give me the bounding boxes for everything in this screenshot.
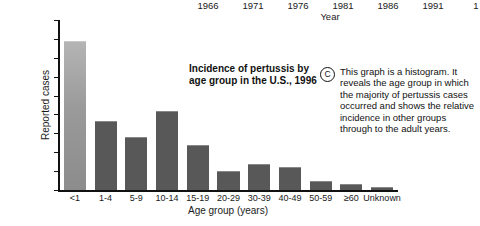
chart-title: Incidence of pertussis by age group in t… (189, 63, 317, 87)
y-axis-label: Reported cases (40, 70, 51, 140)
callout-badge-c: C (320, 67, 335, 82)
y-tick-mark (54, 77, 58, 78)
bar (187, 145, 209, 190)
y-tick-mark (54, 152, 58, 153)
year-tick-label: 1 (462, 0, 480, 11)
y-tick-mark (54, 114, 58, 115)
x-tick-label: 40-49 (278, 193, 301, 203)
x-axis-line (58, 190, 398, 192)
x-tick-label: 15-19 (186, 193, 209, 203)
y-tick-mark (54, 171, 58, 172)
x-tick-label: <1 (70, 193, 80, 203)
bar (340, 184, 362, 190)
bar (64, 41, 86, 190)
callout-annotation: C This graph is a histogram. It reveals … (320, 66, 478, 134)
bar (95, 121, 117, 190)
x-axis-label: Age group (years) (188, 205, 268, 216)
year-tick-label: 1971 (239, 0, 267, 11)
bar (217, 171, 239, 190)
y-tick-mark (54, 190, 58, 191)
bar (310, 181, 332, 190)
bar (279, 167, 301, 190)
x-tick-label: 50-59 (309, 193, 332, 203)
year-tick-label: 1986 (374, 0, 402, 11)
y-tick-mark (54, 39, 58, 40)
x-tick-label: 20-29 (217, 193, 240, 203)
y-tick-mark (54, 96, 58, 97)
x-tick-label: ≥60 (344, 193, 359, 203)
x-tick-label: 10-14 (156, 193, 179, 203)
bar (125, 137, 147, 190)
x-tick-label: 5-9 (130, 193, 143, 203)
year-tick-label: 1976 (284, 0, 312, 11)
x-tick-label: 1-4 (99, 193, 112, 203)
bar (156, 111, 178, 190)
x-tick-label: Unknown (363, 193, 401, 203)
bar (248, 164, 270, 190)
year-tick-label: 1966 (194, 0, 222, 11)
y-tick-mark (54, 58, 58, 59)
year-tick-label: 1981 (329, 0, 357, 11)
year-tick-label: 1991 (419, 0, 447, 11)
y-tick-mark (54, 133, 58, 134)
x-tick-label: 30-39 (248, 193, 271, 203)
bar (371, 187, 393, 190)
y-tick-mark (54, 20, 58, 21)
callout-text: This graph is a histogram. It reveals th… (340, 66, 478, 134)
